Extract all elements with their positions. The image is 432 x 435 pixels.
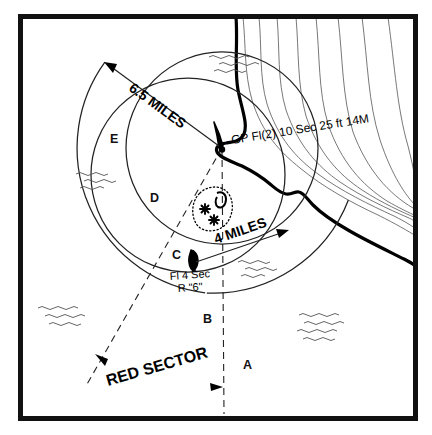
chart-canvas: GP Fl(2) 10 Sec 25 ft 14M 6.5 MILES 4 MI… [0, 0, 432, 435]
sector-label-a: A [243, 358, 252, 372]
rock-symbol [209, 215, 219, 225]
buoy-label-designation: R "6" [177, 280, 203, 294]
rock-symbol [200, 204, 210, 214]
sector-label-b: B [203, 312, 212, 326]
nautical-chart-diagram: GP Fl(2) 10 Sec 25 ft 14M 6.5 MILES 4 MI… [0, 0, 432, 435]
sector-label-d: D [150, 191, 159, 205]
sector-label-e: E [110, 132, 118, 146]
sector-label-c: C [172, 248, 181, 262]
